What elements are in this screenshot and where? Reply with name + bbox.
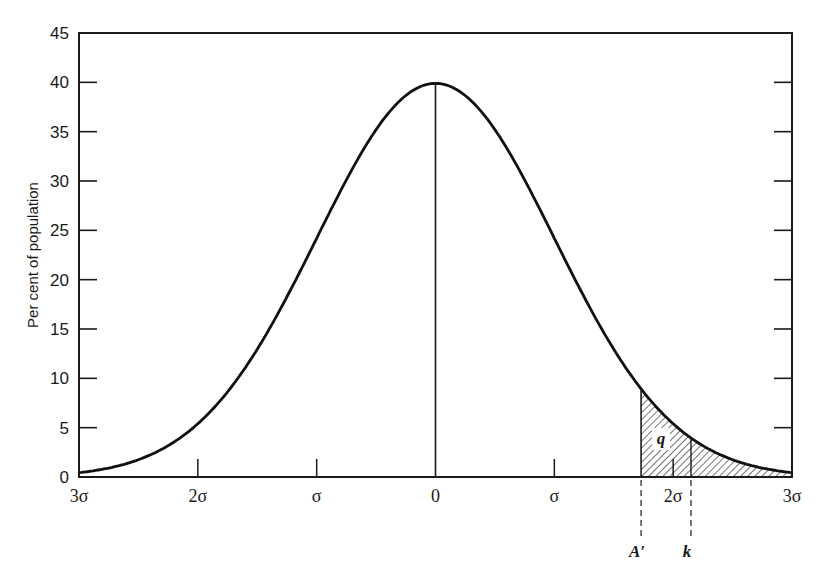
x-tick-label: 0 bbox=[431, 486, 440, 506]
x-tick-label: 3σ bbox=[70, 486, 89, 506]
y-tick-label: 25 bbox=[50, 221, 69, 240]
x-tick-label: 2σ bbox=[664, 486, 683, 506]
x-tick-label: σ bbox=[312, 486, 322, 506]
y-tick-label: 10 bbox=[50, 369, 69, 388]
y-axis-label: Per cent of population bbox=[24, 182, 41, 328]
x-tick-label: 3σ bbox=[783, 486, 802, 506]
y-tick-label: 40 bbox=[50, 73, 69, 92]
a-prime-label: A′ bbox=[628, 542, 645, 561]
normal-distribution-chart: 051015202530354045 3σ2σσ0σ2σ3σ Per cent … bbox=[0, 0, 824, 582]
k-label: k bbox=[683, 542, 692, 561]
y-tick-label: 35 bbox=[50, 123, 69, 142]
y-tick-label: 0 bbox=[60, 468, 69, 487]
x-tick-label: 2σ bbox=[188, 486, 207, 506]
y-axis-ticks: 051015202530354045 bbox=[50, 24, 792, 487]
q-label: q bbox=[657, 429, 666, 448]
y-tick-label: 45 bbox=[50, 24, 69, 43]
y-tick-label: 5 bbox=[60, 419, 69, 438]
y-tick-label: 20 bbox=[50, 271, 69, 290]
y-tick-label: 15 bbox=[50, 320, 69, 339]
x-tick-label: σ bbox=[549, 486, 559, 506]
y-tick-label: 30 bbox=[50, 172, 69, 191]
